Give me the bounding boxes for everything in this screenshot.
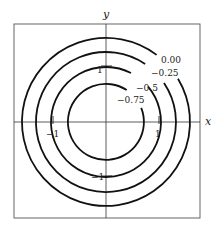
contour-label-neg0.5: −0.5 <box>136 83 158 93</box>
y-tick-label-pos1: 1 <box>97 65 103 75</box>
contour-plot: 0.00 −0.25 −0.5 −0.75 −1 1 1 −1 x y <box>0 0 224 230</box>
contour-label-neg0.25: −0.25 <box>151 68 179 78</box>
y-axis-label: y <box>102 8 110 21</box>
plot-frame <box>14 24 200 218</box>
x-axis-label: x <box>205 115 212 128</box>
y-tick-label-neg1: −1 <box>91 172 104 182</box>
contour-label-0.00: 0.00 <box>161 55 181 65</box>
contour-label-neg0.75: −0.75 <box>117 95 145 105</box>
x-tick-label-neg1: −1 <box>46 129 59 139</box>
x-tick-label-pos1: 1 <box>155 129 161 139</box>
